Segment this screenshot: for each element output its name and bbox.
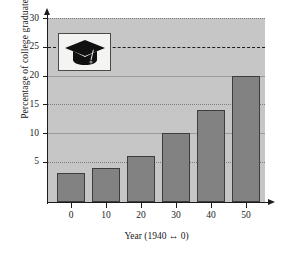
y-tick-mark-5 — [43, 162, 48, 163]
bar-chart-figure: Percentage of college graduates 30 — [0, 0, 285, 254]
y-tick-label-20: 20 — [15, 71, 39, 81]
bar-50[interactable] — [232, 76, 260, 203]
x-tick-label-10: 10 — [91, 211, 121, 221]
bar-0[interactable] — [57, 173, 85, 202]
x-axis-line — [47, 202, 270, 203]
x-tick-label-40: 40 — [196, 211, 226, 221]
y-tick-label-15: 15 — [15, 100, 39, 110]
graduation-cap-icon — [63, 37, 107, 67]
y-tick-mark-20 — [43, 76, 48, 77]
y-axis-arrow-icon — [44, 8, 50, 15]
y-tick-label-25: 25 — [15, 42, 39, 52]
x-axis-arrow-icon — [268, 199, 275, 205]
y-axis-line — [47, 14, 48, 204]
x-tick-label-20: 20 — [126, 211, 156, 221]
bar-10[interactable] — [92, 168, 120, 203]
y-tick-label-30: 30 — [15, 14, 39, 24]
x-tick-mark-30 — [176, 202, 177, 208]
x-tick-label-50: 50 — [231, 211, 261, 221]
y-tick-mark-30 — [43, 18, 48, 19]
x-tick-label-0: 0 — [56, 211, 86, 221]
x-tick-mark-10 — [106, 202, 107, 208]
graduation-cap-inset — [58, 33, 111, 71]
y-tick-label-10: 10 — [15, 129, 39, 139]
x-tick-mark-50 — [246, 202, 247, 208]
y-tick-mark-10 — [43, 133, 48, 134]
gridline-30 — [48, 18, 265, 19]
x-tick-mark-40 — [211, 202, 212, 208]
x-axis-title: Year (1940 ↔ 0) — [48, 231, 265, 241]
bar-30[interactable] — [162, 133, 190, 202]
plot-area — [48, 18, 265, 202]
y-tick-label-5: 5 — [15, 157, 39, 167]
bar-40[interactable] — [197, 110, 225, 202]
x-tick-label-30: 30 — [161, 211, 191, 221]
bar-20[interactable] — [127, 156, 155, 202]
y-tick-mark-15 — [43, 104, 48, 105]
x-tick-mark-20 — [141, 202, 142, 208]
x-tick-mark-0 — [71, 202, 72, 208]
y-tick-mark-25 — [43, 47, 48, 48]
